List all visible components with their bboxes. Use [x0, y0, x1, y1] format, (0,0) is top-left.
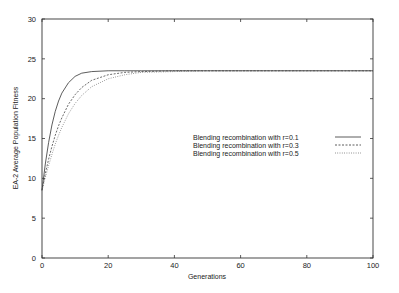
- y-tick-label: 25: [28, 55, 36, 64]
- legend-label-r03: Blending recombination with r=0.3: [193, 142, 299, 150]
- series-line-2: [42, 71, 373, 191]
- x-tick-label: 80: [303, 261, 311, 270]
- y-tick-label: 20: [28, 94, 36, 103]
- x-tick-label: 0: [40, 261, 44, 270]
- line-chart: 020406080100051015202530 Blending recomb…: [0, 0, 399, 293]
- legend: Blending recombination with r=0.1 Blendi…: [193, 134, 361, 158]
- y-tick-label: 30: [28, 15, 36, 24]
- y-tick-label: 10: [28, 174, 36, 183]
- y-axis-label: EA-2 Average Population Fitness: [12, 86, 20, 189]
- series-line-1: [42, 71, 373, 191]
- series-line-0: [42, 71, 373, 191]
- legend-label-r01: Blending recombination with r=0.1: [193, 134, 299, 142]
- legend-label-r05: Blending recombination with r=0.5: [193, 150, 299, 158]
- x-axis-label: Generations: [188, 273, 227, 280]
- x-tick-label: 60: [236, 261, 244, 270]
- y-tick-label: 5: [32, 214, 36, 223]
- x-tick-label: 100: [367, 261, 380, 270]
- y-tick-label: 0: [32, 254, 36, 263]
- y-tick-label: 15: [28, 134, 36, 143]
- x-tick-label: 40: [170, 261, 178, 270]
- x-tick-label: 20: [104, 261, 112, 270]
- series-lines: [42, 71, 373, 191]
